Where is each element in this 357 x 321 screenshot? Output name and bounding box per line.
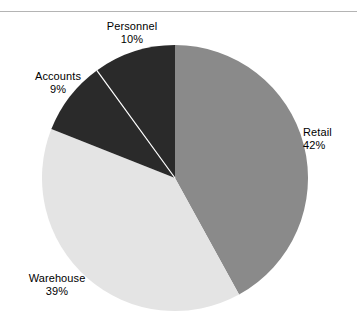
- pie-label-personnel-value: 10%: [96, 33, 168, 46]
- pie-label-warehouse-value: 39%: [16, 285, 98, 298]
- pie-chart-figure: Personnel 10% Accounts 9% Retail 42% War…: [0, 0, 357, 321]
- pie-label-personnel: Personnel 10%: [96, 20, 168, 46]
- pie-label-warehouse: Warehouse 39%: [16, 272, 98, 298]
- pie-label-accounts: Accounts 9%: [22, 70, 94, 96]
- pie-label-warehouse-name: Warehouse: [16, 272, 98, 285]
- pie-label-retail-name: Retail: [303, 126, 351, 139]
- pie-label-retail: Retail 42%: [303, 126, 351, 152]
- pie-label-accounts-value: 9%: [22, 83, 94, 96]
- pie-label-personnel-name: Personnel: [96, 20, 168, 33]
- pie-label-accounts-name: Accounts: [22, 70, 94, 83]
- pie-label-retail-value: 42%: [303, 139, 351, 152]
